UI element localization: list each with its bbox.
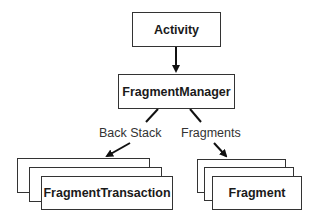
fragments-edge-label: Fragments [181, 126, 241, 140]
activity-node: Activity [132, 12, 221, 47]
fragment-manager-label: FragmentManager [122, 85, 230, 99]
fragment-label: Fragment [229, 186, 286, 200]
fragments-line [190, 109, 201, 122]
back-stack-arrow [107, 143, 130, 156]
back-stack-line [146, 109, 158, 122]
back-stack-edge-label: Back Stack [99, 126, 162, 140]
activity-label: Activity [154, 23, 199, 37]
fragment-transaction-label: FragmentTransaction [43, 186, 170, 200]
fragment-transaction-node: FragmentTransaction [41, 176, 173, 210]
fragment-node: Fragment [212, 176, 302, 210]
fragment-manager-node: FragmentManager [118, 74, 235, 109]
fragments-arrow [214, 143, 226, 156]
